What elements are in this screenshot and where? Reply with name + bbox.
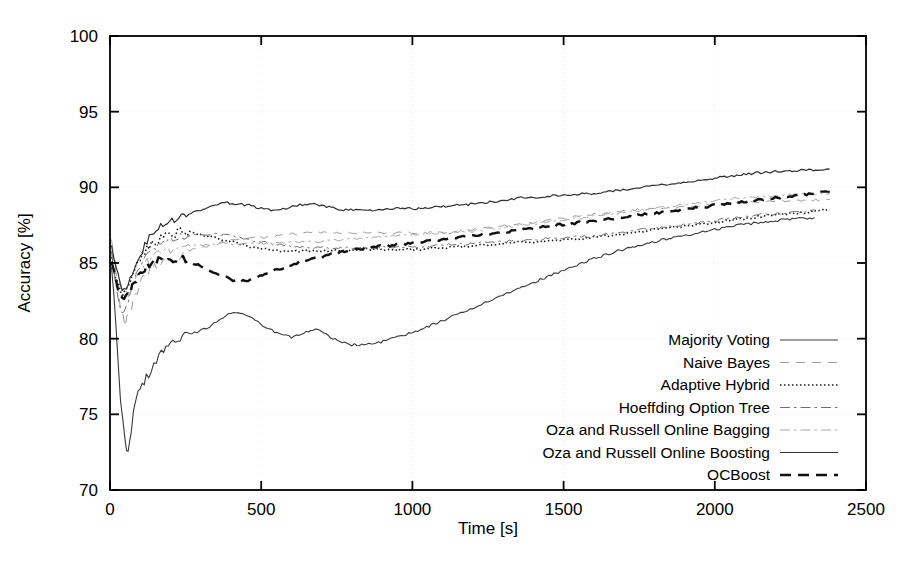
y-tick-label: 100	[70, 27, 98, 46]
x-tick-label: 500	[247, 500, 275, 519]
x-tick-label: 2500	[847, 500, 885, 519]
y-tick-label: 70	[79, 481, 98, 500]
chart-background	[0, 0, 911, 582]
y-tick-label: 75	[79, 405, 98, 424]
x-tick-label: 1500	[545, 500, 583, 519]
legend-label: Hoeffding Option Tree	[619, 399, 770, 416]
legend-label: Oza and Russell Online Boosting	[543, 444, 770, 461]
accuracy-vs-time-chart: 70758085909510005001000150020002500 Majo…	[0, 0, 911, 582]
legend-label: OCBoost	[707, 466, 771, 483]
legend-label: Adaptive Hybrid	[661, 376, 770, 393]
y-tick-label: 90	[79, 178, 98, 197]
legend-label: Majority Voting	[668, 331, 770, 348]
y-axis-label: Accuracy [%]	[15, 213, 34, 312]
x-tick-label: 2000	[696, 500, 734, 519]
x-tick-label: 1000	[393, 500, 431, 519]
chart-canvas: 70758085909510005001000150020002500 Majo…	[0, 0, 911, 582]
x-axis-label: Time [s]	[458, 519, 518, 538]
legend-label: Oza and Russell Online Bagging	[546, 421, 770, 438]
y-tick-label: 95	[79, 103, 98, 122]
legend-label: Naive Bayes	[683, 354, 770, 371]
x-tick-label: 0	[105, 500, 114, 519]
y-tick-label: 85	[79, 254, 98, 273]
y-tick-label: 80	[79, 330, 98, 349]
